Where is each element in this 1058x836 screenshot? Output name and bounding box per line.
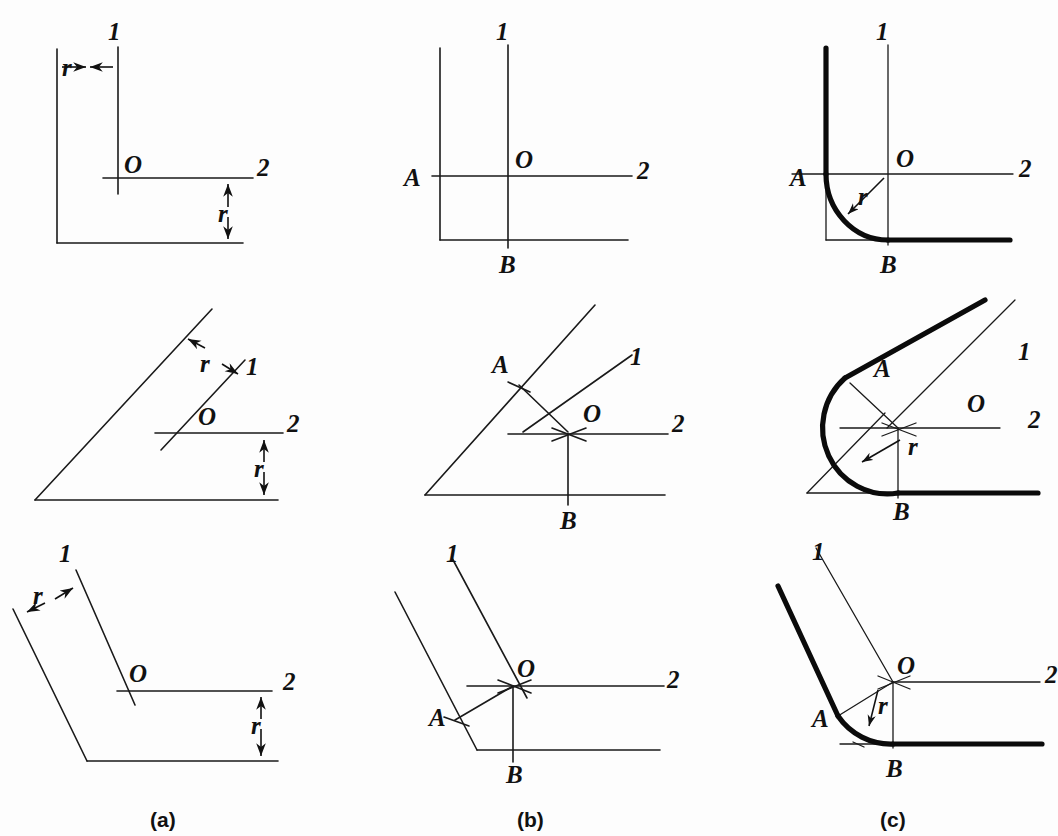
caption-c: (c) xyxy=(880,808,906,831)
center-label: O xyxy=(515,146,533,173)
line-1-label: 1 xyxy=(630,343,643,370)
radius-label: r xyxy=(878,692,888,719)
line-2-label: 2 xyxy=(286,410,300,437)
tangent-line-to-a xyxy=(850,383,898,428)
line-2-label: 2 xyxy=(256,154,270,181)
line-1-label: 1 xyxy=(496,18,509,45)
center-label: O xyxy=(897,652,915,679)
radius-label: r xyxy=(254,455,264,482)
radius-label: r xyxy=(200,350,210,377)
fillet-arc xyxy=(823,378,898,494)
fig-b1-right-angle-step-b: 1 2 O A B xyxy=(402,18,650,278)
given-slant-line xyxy=(13,609,87,761)
line-1-label: 1 xyxy=(446,540,459,567)
given-slant-line xyxy=(35,309,212,500)
caption-a: (a) xyxy=(150,808,176,831)
tangent-point-a-label: A xyxy=(402,164,421,191)
fig-c3-obtuse-angle-step-c: r 1 2 O A B xyxy=(778,538,1058,782)
line-2-label: 2 xyxy=(1044,661,1058,688)
fig-b3-obtuse-angle-step-b: 1 2 O A B xyxy=(395,540,680,788)
line-1-label: 1 xyxy=(108,18,121,45)
drawing-plate: r r 1 2 O 1 2 O A B r 1 2 O A B xyxy=(0,0,1058,836)
fig-c2-acute-angle-step-c: r 1 2 O A B xyxy=(807,300,1041,525)
radius-label: r xyxy=(858,183,868,210)
line-1-label: 1 xyxy=(59,540,72,567)
center-label: O xyxy=(583,400,601,427)
line-2-label: 2 xyxy=(636,157,650,184)
line-2-label: 2 xyxy=(666,666,680,693)
caption-b: (b) xyxy=(517,808,544,831)
line-2-label: 2 xyxy=(282,668,296,695)
tangent-point-a-label: A xyxy=(810,705,829,732)
line-2-label: 2 xyxy=(671,410,685,437)
tangent-point-b-label: B xyxy=(505,761,523,788)
radius-label: r xyxy=(62,54,72,81)
r-dim-arrow-upper xyxy=(188,339,205,348)
tangent-point-a-label: A xyxy=(788,164,807,191)
center-label: O xyxy=(198,403,216,430)
center-label: O xyxy=(896,145,914,172)
tangent-point-b-label: B xyxy=(892,498,910,525)
line-1-label: 1 xyxy=(812,538,825,565)
line-1-label: 1 xyxy=(876,18,889,45)
technical-drawing-svg: r r 1 2 O 1 2 O A B r 1 2 O A B xyxy=(0,0,1058,836)
fig-c1-right-angle-step-c: r 1 2 O A B xyxy=(788,18,1032,278)
line-2-label: 2 xyxy=(1027,406,1041,433)
radius-label: r xyxy=(218,200,228,227)
line-2-label: 2 xyxy=(1018,155,1032,182)
parallel-line-1 xyxy=(76,570,135,705)
parallel-line-1 xyxy=(452,558,527,698)
object-line-slant xyxy=(845,300,985,378)
parallel-line-1 xyxy=(816,548,893,682)
tangent-point-b-label: B xyxy=(879,251,897,278)
tangent-point-b-label: B xyxy=(498,251,516,278)
line-1-label: 1 xyxy=(246,353,259,380)
tangent-point-a-label: A xyxy=(427,704,446,731)
object-line-slant xyxy=(778,586,838,716)
radius-label: r xyxy=(33,582,43,609)
tangent-line-to-a xyxy=(519,385,568,432)
fillet-arc xyxy=(838,716,893,744)
fig-b2-acute-angle-step-b: 1 2 O A B xyxy=(425,305,685,534)
center-label: O xyxy=(129,660,147,687)
r-dim-arrow-right xyxy=(55,588,73,599)
radius-leader xyxy=(862,440,900,462)
fig-a2-acute-angle-step-a: r r 1 2 O xyxy=(35,309,300,500)
tangent-point-b-label: B xyxy=(885,755,903,782)
radius-label: r xyxy=(908,433,918,460)
center-label: O xyxy=(967,390,985,417)
tangent-point-a-label: A xyxy=(490,351,509,378)
line-1-label: 1 xyxy=(1018,338,1031,365)
tangent-point-b-label: B xyxy=(559,507,577,534)
fig-a1-right-angle-step-a: r r 1 2 O xyxy=(57,18,270,243)
tangent-point-a-label: A xyxy=(872,355,891,382)
center-label: O xyxy=(517,655,535,682)
fig-a3-obtuse-angle-step-a: r r 1 2 O xyxy=(13,540,296,761)
radius-label: r xyxy=(251,712,261,739)
center-label: O xyxy=(124,151,142,178)
